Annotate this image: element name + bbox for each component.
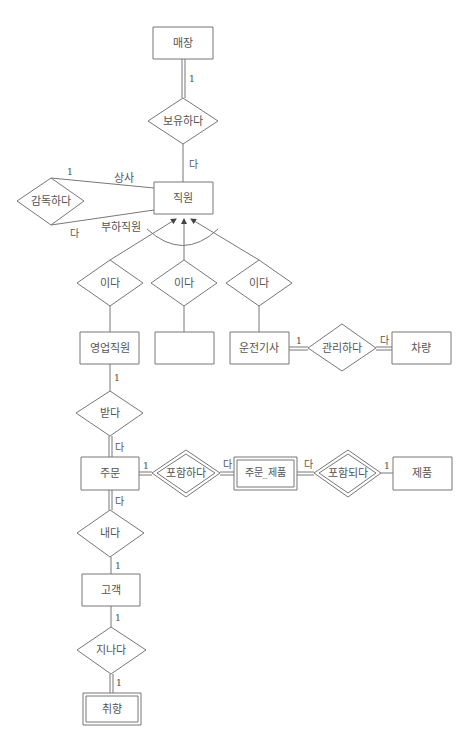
rel-manages-label: 관리하다 [322, 343, 362, 354]
rel-supervises-label: 감독하다 [31, 196, 71, 207]
role-supervisor-label: 상사 [114, 173, 134, 184]
card-order-places: 다 [115, 497, 124, 507]
card-sales-receives: 1 [114, 373, 120, 383]
rel-isa-blank-label: 이다 [174, 278, 194, 289]
entity-store-label: 매장 [173, 38, 193, 49]
er-diagram: 매장 직원 영업직원 운전기사 차량 주문 주문_제품 제품 고객 취향 보유하… [0, 0, 473, 742]
entity-order-label: 주문 [100, 468, 120, 479]
entity-blank-subtype [155, 332, 214, 364]
diagram-lines [0, 0, 473, 742]
rel-isa-driver-label: 이다 [249, 278, 269, 289]
card-manages-vehicle: 다 [380, 336, 389, 346]
card-included-product: 1 [384, 461, 390, 471]
card-contains-orderproduct: 다 [223, 460, 232, 470]
card-customer-holds: 1 [115, 613, 121, 623]
rel-places-label: 내다 [100, 528, 120, 539]
rel-has-label: 보유하다 [163, 116, 203, 127]
entity-customer-label: 고객 [101, 585, 121, 596]
card-places-customer: 1 [115, 561, 121, 571]
rel-included-label: 포함되다 [328, 468, 368, 479]
card-has-employee: 다 [189, 160, 198, 170]
rel-isa-sales-label: 이다 [100, 278, 120, 289]
entity-employee-label: 직원 [173, 193, 193, 204]
card-driver-manages: 1 [296, 336, 302, 346]
rel-holds-label: 지나다 [96, 645, 126, 656]
entity-product-label: 제품 [412, 468, 432, 479]
card-receives-order: 다 [115, 443, 124, 453]
card-supervises-top: 1 [67, 167, 73, 177]
entity-driver-label: 운전기사 [239, 343, 279, 354]
rel-receives-label: 받다 [100, 408, 120, 419]
card-orderproduct-included: 다 [304, 460, 313, 470]
rel-contains-label: 포함하다 [166, 468, 206, 479]
card-order-contains: 1 [143, 461, 149, 471]
card-supervises-bottom: 다 [70, 229, 79, 239]
entity-preference-label: 취향 [102, 704, 122, 715]
card-store-has: 1 [189, 74, 195, 84]
entity-sales-employee-label: 영업직원 [90, 343, 130, 354]
card-holds-preference: 1 [116, 678, 122, 688]
role-subordinate-label: 부하직원 [101, 222, 141, 233]
entity-order-product-label: 주문_제품 [245, 468, 286, 478]
entity-vehicle-label: 차량 [411, 343, 431, 354]
